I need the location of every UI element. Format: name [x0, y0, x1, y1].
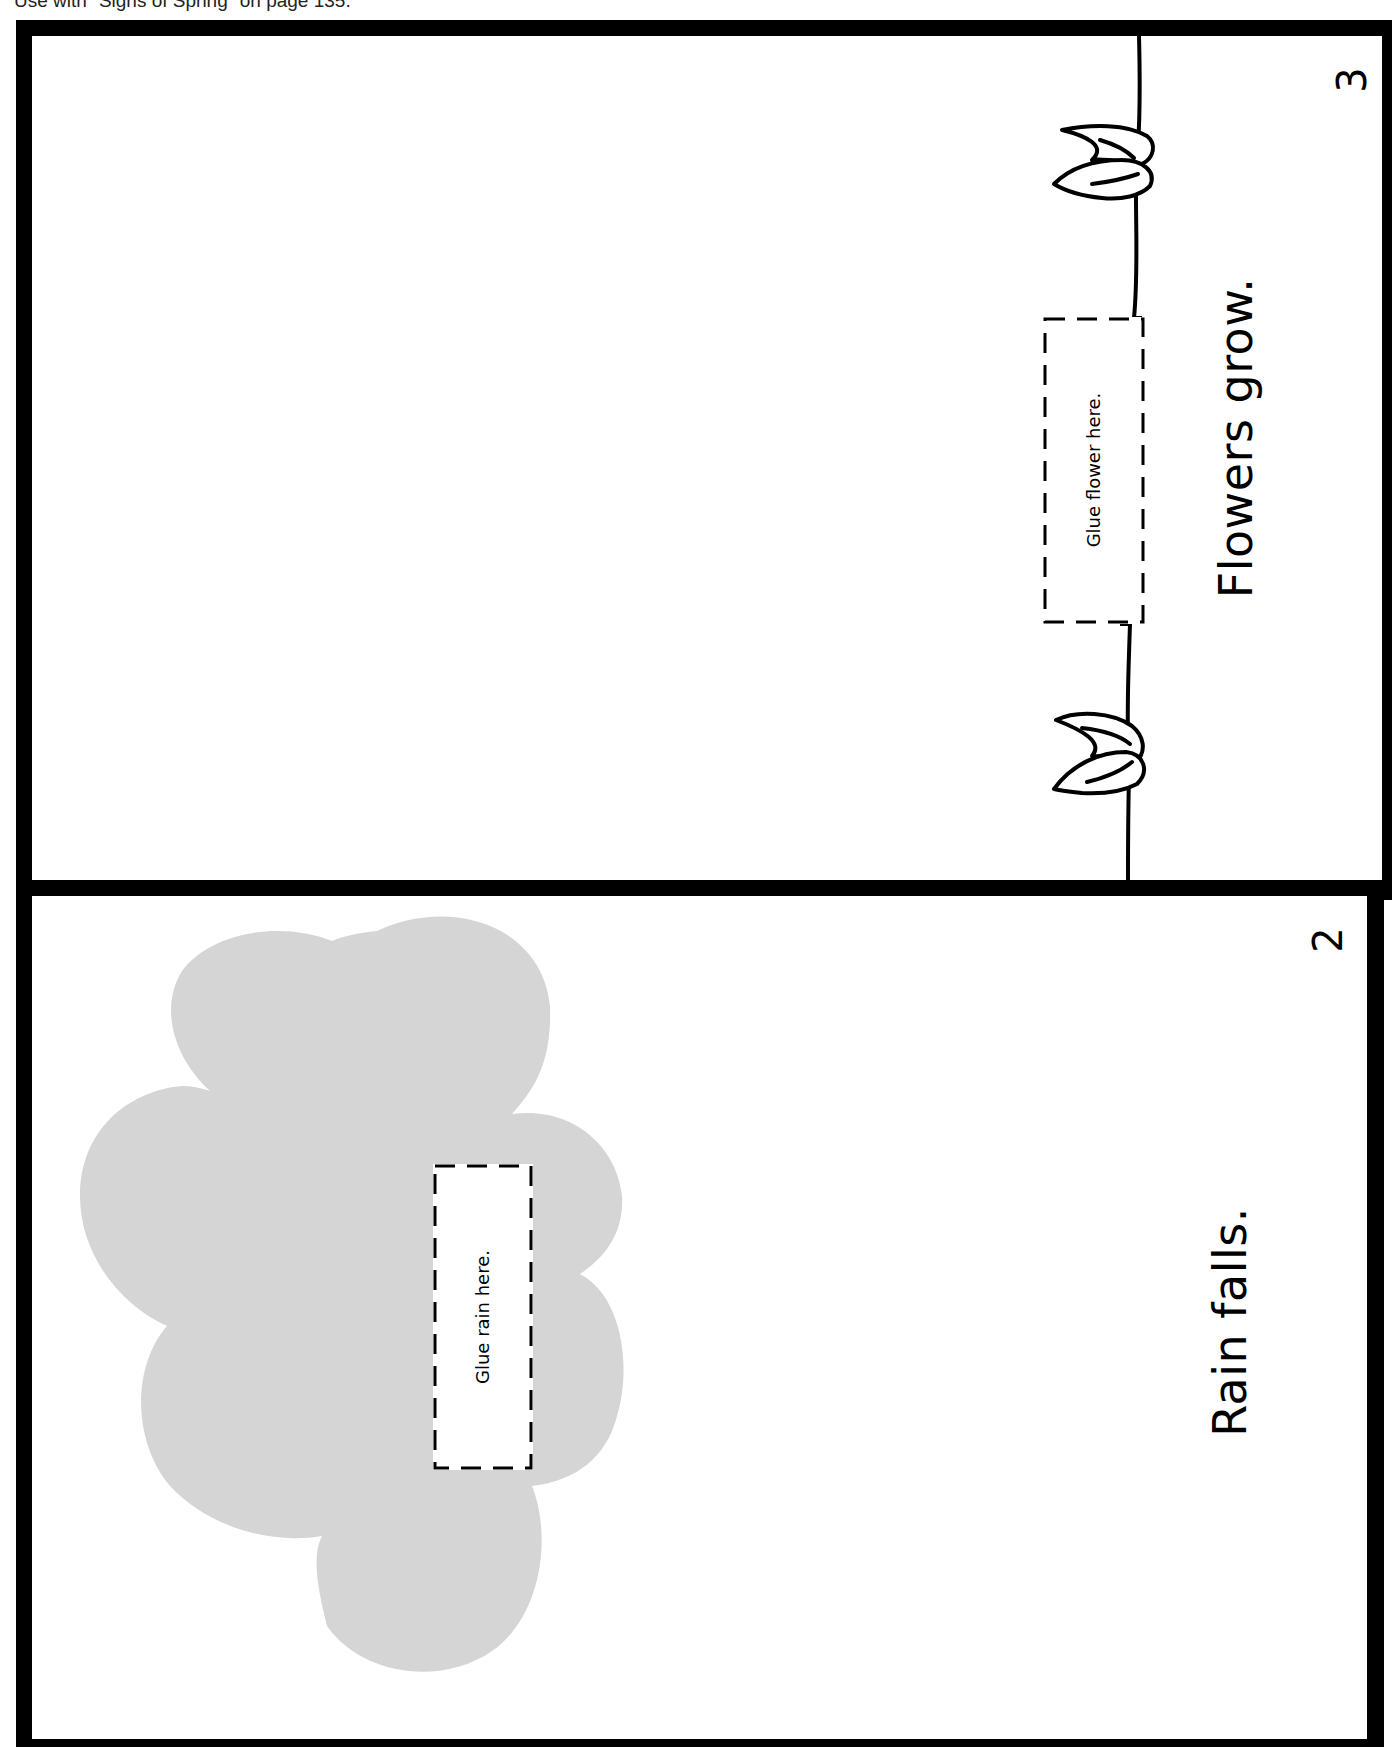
page-caption: Flowers grow. [1213, 278, 1259, 599]
page-number: 2 [1308, 927, 1348, 952]
frame-right-border-bottom [1367, 880, 1384, 1747]
glue-rain-box: Glue rain here. [433, 1164, 533, 1470]
glue-flower-label: Glue flower here. [1085, 393, 1103, 548]
sprout-icon [1054, 126, 1153, 198]
frame-top-border [16, 20, 1392, 36]
frame-right-border-top [1382, 20, 1392, 900]
page-caption: Rain falls. [1207, 1207, 1253, 1437]
glue-flower-box: Glue flower here. [1043, 317, 1145, 624]
page-divider [16, 880, 1384, 896]
sprout-icon [1054, 714, 1144, 793]
instruction-note: Use with "Signs of Spring" on page 135. [14, 0, 351, 12]
cloud-illustration [32, 896, 1367, 1739]
ground-line-illustration [32, 36, 1382, 880]
glue-rain-label: Glue rain here. [474, 1250, 492, 1384]
booklet-page-2: Glue rain here. Rain falls. 2 [32, 896, 1367, 1739]
frame-bottom-border [16, 1739, 1384, 1747]
cloud-shape [80, 917, 624, 1672]
booklet-page-3: Glue flower here. Flowers grow. 3 [32, 36, 1382, 880]
page-number: 3 [1332, 67, 1372, 92]
